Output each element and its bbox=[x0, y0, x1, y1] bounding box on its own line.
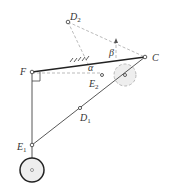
joint-D1 bbox=[78, 106, 81, 109]
label-D2: D2 bbox=[69, 11, 81, 24]
dashed-lines bbox=[32, 22, 145, 86]
label-beta: β bbox=[108, 47, 114, 58]
label-E1: E1 bbox=[16, 141, 27, 154]
joint-C bbox=[143, 55, 147, 59]
label-alpha: α bbox=[88, 62, 94, 73]
label-E2: E2 bbox=[88, 78, 99, 91]
joint-F bbox=[30, 70, 34, 74]
joint-E1 bbox=[30, 143, 34, 147]
joint-circle-center bbox=[124, 74, 127, 77]
mechanism-diagram: D2 C F E2 D1 E1 α β bbox=[0, 0, 173, 196]
label-F: F bbox=[19, 66, 27, 77]
ground-hatch bbox=[70, 56, 89, 62]
label-D1: D1 bbox=[79, 112, 91, 125]
joint-E2 bbox=[101, 74, 104, 77]
beta-arrow-icon bbox=[114, 38, 118, 43]
label-C: C bbox=[152, 52, 159, 63]
